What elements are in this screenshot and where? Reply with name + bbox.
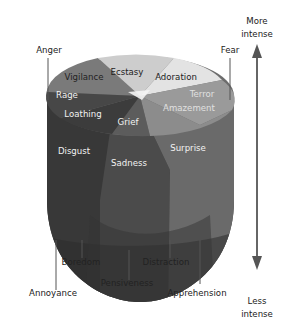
- surprise-label: Surprise: [170, 143, 206, 153]
- anger-label: Anger: [36, 45, 62, 55]
- less-intense-label-1: Less: [248, 296, 267, 306]
- emotion-cone-diagram: More intense Less intense Anger Fear Ecs…: [0, 0, 299, 330]
- boredom-label: Boredom: [62, 257, 101, 267]
- amazement-label: Amazement: [163, 103, 215, 113]
- disgust-label: Disgust: [58, 146, 91, 156]
- vigilance-label: Vigilance: [64, 72, 103, 82]
- terror-label: Terror: [189, 89, 215, 99]
- intensity-arrow: [252, 44, 262, 270]
- pensiveness-label: Pensiveness: [101, 278, 154, 288]
- fear-label: Fear: [221, 45, 240, 55]
- less-intense-label-2: intense: [241, 309, 273, 319]
- more-intense-label-2: intense: [241, 29, 273, 39]
- arrow-down-icon: [252, 256, 262, 270]
- sadness-label: Sadness: [111, 158, 147, 168]
- distraction-label: Distraction: [143, 257, 190, 267]
- adoration-label: Adoration: [155, 72, 197, 82]
- annoyance-label: Annoyance: [29, 288, 77, 298]
- ecstasy-label: Ecstasy: [111, 67, 144, 77]
- arrow-up-icon: [252, 44, 262, 58]
- more-intense-label-1: More: [246, 16, 267, 26]
- grief-label: Grief: [118, 117, 140, 127]
- apprehension-label: Apprehension: [167, 288, 226, 298]
- loathing-label: Loathing: [64, 109, 101, 119]
- rage-label: Rage: [56, 90, 78, 100]
